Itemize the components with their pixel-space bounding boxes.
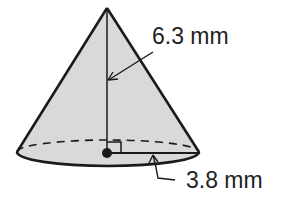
center-point [102, 148, 112, 158]
cone-diagram: 6.3 mm 3.8 mm [0, 0, 283, 209]
radius-label: 3.8 mm [186, 167, 263, 193]
slant-height-label: 6.3 mm [152, 23, 229, 49]
